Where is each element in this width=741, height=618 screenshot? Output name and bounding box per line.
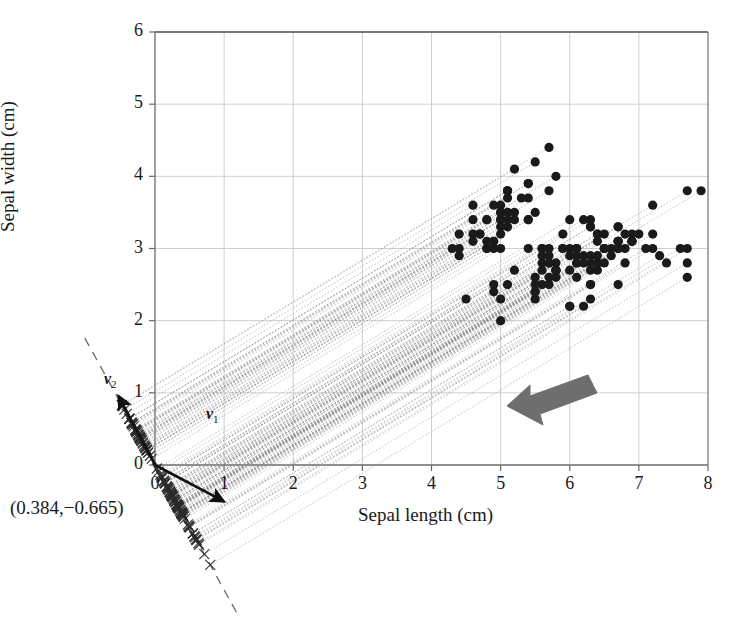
- y-tick-label: 6: [121, 20, 143, 41]
- v2-label: v2: [104, 370, 117, 390]
- x-tick-label: 0: [142, 473, 168, 494]
- y-tick-label: 1: [121, 381, 143, 402]
- y-tick-label: 3: [121, 237, 143, 258]
- x-axis-title: Sepal length (cm): [358, 504, 493, 526]
- x-tick-label: 6: [557, 473, 583, 494]
- x-tick-label: 1: [211, 473, 237, 494]
- x-tick-marks: [155, 465, 708, 471]
- projection-lines: [122, 147, 701, 564]
- pca-scatter-figure: Sepal length (cm) Sepal width (cm) 01234…: [0, 0, 741, 618]
- principal-direction-label: (0.384,−0.665): [10, 497, 124, 519]
- x-tick-label: 7: [626, 473, 652, 494]
- x-tick-label: 5: [488, 473, 514, 494]
- x-tick-label: 8: [695, 473, 721, 494]
- v1-label: v1: [206, 405, 219, 425]
- y-tick-label: 5: [121, 92, 143, 113]
- y-tick-label: 4: [121, 164, 143, 185]
- y-tick-label: 0: [121, 453, 143, 474]
- projection-direction-arrow: [507, 375, 597, 425]
- v1-subscript: 1: [213, 413, 219, 425]
- x-tick-label: 4: [419, 473, 445, 494]
- y-tick-marks: [149, 32, 155, 465]
- x-tick-label: 2: [280, 473, 306, 494]
- data-points: [448, 143, 706, 325]
- y-axis-title: Sepal width (cm): [0, 101, 19, 232]
- x-tick-label: 3: [349, 473, 375, 494]
- y-tick-label: 2: [121, 309, 143, 330]
- v2-subscript: 2: [111, 378, 117, 390]
